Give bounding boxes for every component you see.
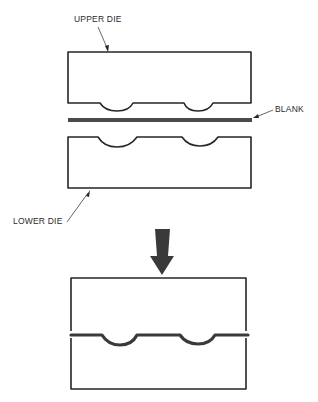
upper-die-leader-arrowhead xyxy=(105,45,109,52)
blank-leader-arrowhead xyxy=(253,114,259,118)
down-arrow-icon xyxy=(150,229,174,275)
lower-die-leader-arrowhead xyxy=(86,190,90,197)
lower-die-label: LOWER DIE xyxy=(13,216,63,226)
upper-die-open xyxy=(68,52,251,111)
blank-leader xyxy=(256,110,273,117)
blank-open xyxy=(68,118,252,122)
forging-diagram xyxy=(0,0,318,402)
blank-label: BLANK xyxy=(275,104,304,114)
lower-die-open xyxy=(68,137,251,188)
upper-die-closed xyxy=(71,278,246,331)
blank-closed xyxy=(71,335,248,345)
lower-die-closed xyxy=(71,338,246,389)
upper-die-label: UPPER DIE xyxy=(74,14,122,24)
lower-die-leader xyxy=(67,193,88,222)
